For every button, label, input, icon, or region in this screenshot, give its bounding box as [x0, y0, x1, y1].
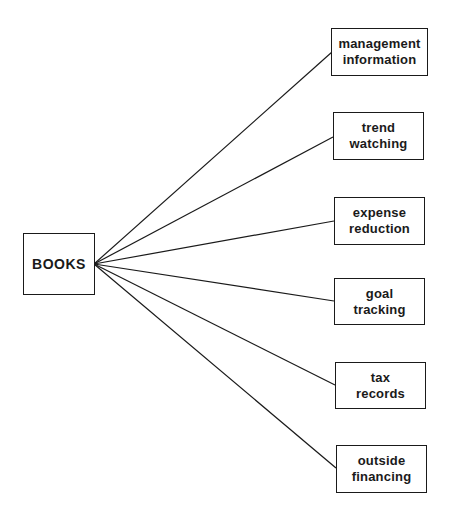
node-label-line1: management — [338, 36, 420, 52]
node-label-line2: information — [343, 52, 417, 68]
connector-management-information — [94, 52, 332, 264]
node-goal-tracking: goal tracking — [334, 278, 425, 325]
node-tax-records: tax records — [335, 362, 426, 409]
node-expense-reduction: expense reduction — [334, 197, 425, 245]
node-label-line1: goal — [366, 286, 394, 302]
node-management-information: management information — [331, 28, 428, 76]
node-label-line1: outside — [358, 453, 406, 469]
connector-expense-reduction — [94, 221, 334, 264]
connector-outside-financing — [94, 264, 336, 468]
node-trend-watching: trend watching — [333, 112, 424, 160]
node-label-line2: watching — [350, 136, 408, 152]
node-label-line2: tracking — [353, 302, 405, 318]
node-label-line1: tax — [371, 370, 390, 386]
node-label-line2: records — [356, 386, 405, 402]
root-label: BOOKS — [32, 256, 86, 272]
node-outside-financing: outside financing — [336, 445, 427, 493]
node-label-line2: financing — [352, 469, 412, 485]
node-label-line1: trend — [362, 120, 396, 136]
root-node-books: BOOKS — [23, 233, 95, 295]
node-label-line2: reduction — [349, 221, 410, 237]
node-label-line1: expense — [353, 205, 406, 221]
connector-trend-watching — [94, 137, 333, 264]
